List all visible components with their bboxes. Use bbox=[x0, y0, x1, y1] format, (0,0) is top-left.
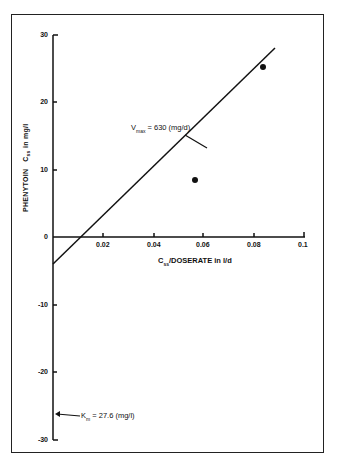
x-tick-label: 0.02 bbox=[96, 241, 110, 248]
x-tick-label: 0.06 bbox=[196, 241, 210, 248]
data-point bbox=[192, 177, 198, 183]
plot-area bbox=[0, 0, 337, 466]
km-arrow bbox=[57, 414, 80, 416]
x-tick-label: 0.1 bbox=[298, 241, 308, 248]
y-tick-label: 20 bbox=[26, 98, 48, 105]
fit-line bbox=[53, 48, 275, 264]
km-annotation: Km = 27.6 (mg/l) bbox=[81, 411, 135, 422]
y-tick-label: -10 bbox=[26, 301, 48, 308]
x-tick-label: 0.08 bbox=[247, 241, 261, 248]
vmax-arrow bbox=[185, 135, 207, 148]
y-axis-label: PHENYTOIN Css in mg/l bbox=[22, 123, 31, 212]
vmax-annotation: Vmax = 630 (mg/d) bbox=[131, 123, 190, 134]
x-axis-label: Css/DOSERATE in l/d bbox=[158, 256, 232, 267]
y-tick-label: -30 bbox=[26, 436, 48, 443]
y-tick-label: -20 bbox=[26, 368, 48, 375]
data-point bbox=[260, 64, 266, 70]
y-tick-label: 0 bbox=[26, 233, 48, 240]
km-arrowhead bbox=[55, 411, 60, 417]
x-tick-label: 0.04 bbox=[147, 241, 161, 248]
y-tick-label: 30 bbox=[26, 31, 48, 38]
